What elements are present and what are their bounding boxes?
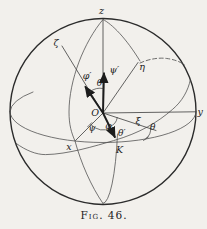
y-axis-line: [103, 112, 196, 113]
theta-polar-label: θ: [97, 78, 103, 88]
theta-node-label: θ: [150, 122, 156, 132]
eta-axis-label: η: [139, 61, 145, 72]
eta-axis-line: [103, 63, 138, 114]
equator-front-arc: [10, 112, 196, 143]
theta-rate-label: θ′: [118, 128, 125, 138]
theta-polar-angle-arc: [90, 88, 103, 91]
origin-label: O: [91, 107, 99, 118]
node-circle-back-dashed-arc: [140, 58, 185, 65]
figure-caption: Fig. 46.: [80, 209, 127, 221]
figure-page: z ζ η y x ξ K O ψ′ φ′ θ ψ φ θ′ θ Fig. 46…: [0, 0, 207, 229]
xi-axis-label: ξ: [135, 115, 141, 126]
x-axis-label: x: [66, 141, 72, 152]
z-eta-meridian-arc: [103, 20, 140, 62]
y-axis-label: y: [197, 106, 204, 117]
phi-angle-label: φ: [105, 121, 112, 131]
node-point-label: K: [115, 144, 124, 155]
zeta-axis-label: ζ: [53, 37, 59, 48]
psi-angle-label: ψ: [88, 123, 96, 133]
psi-rate-label: ψ′: [110, 64, 120, 75]
psi-rate-arrow: [103, 74, 104, 114]
equator-back-arc: [10, 92, 33, 112]
euler-angles-figure: z ζ η y x ξ K O ψ′ φ′ θ ψ φ θ′ θ Fig. 46…: [0, 0, 207, 229]
phi-rate-label: φ′: [83, 70, 93, 81]
z-axis-label: z: [98, 5, 105, 16]
